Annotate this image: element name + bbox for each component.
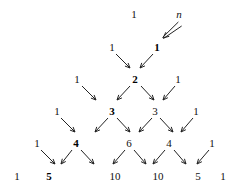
- triangle-cell-r5-c4: 5: [195, 171, 201, 182]
- pascals-triangle-figure: 11112113311464115101051 n: [0, 0, 237, 189]
- arrow-r2c1-to-r3c0: [117, 86, 130, 100]
- triangle-cell-r4-c3: 4: [166, 138, 172, 149]
- triangle-cell-r5-c3: 10: [153, 171, 164, 182]
- triangle-cell-r2-c0: 1: [74, 74, 80, 85]
- arrow-r3c1-to-r4c0: [95, 118, 108, 132]
- triangle-cell-r3-c1: 3: [109, 106, 115, 117]
- triangle-cell-r5-c0: 1: [14, 171, 20, 182]
- arrow-r4c3-to-r5c2: [153, 150, 165, 164]
- arrow-r2c1-to-r3c1: [141, 86, 154, 100]
- arrow-r2c0-to-r3c0: [82, 86, 96, 100]
- arrow-r4c3-to-r5c3: [174, 150, 186, 164]
- arrow-r4c1-to-r5c1: [81, 150, 94, 164]
- arrow-r4c4-to-r5c3: [197, 150, 209, 164]
- arrow-r1c0-to-r2c0: [116, 54, 130, 68]
- triangle-cell-r5-c2: 10: [110, 171, 121, 182]
- arrow-layer: [0, 0, 237, 189]
- arrow-r1c1-to-r2c0: [140, 54, 153, 68]
- arrow-r3c2-to-r4c1: [139, 118, 152, 132]
- arrow-r3c3-to-r4c2: [181, 118, 193, 132]
- arrow-r4c2-to-r5c1: [113, 150, 125, 164]
- triangle-cell-r5-c1: 5: [46, 171, 52, 182]
- triangle-cell-r2-c1: 2: [132, 74, 138, 85]
- triangle-cell-r3-c3: 1: [193, 106, 199, 117]
- triangle-cell-r3-c0: 1: [54, 106, 60, 117]
- triangle-cell-r1-c0: 1: [109, 42, 115, 53]
- arrow-r3c1-to-r4c1: [117, 118, 130, 132]
- triangle-cell-r3-c2: 3: [152, 106, 158, 117]
- triangle-cell-r4-c0: 1: [34, 138, 40, 149]
- arrow-r4c1-to-r5c0: [61, 150, 72, 164]
- arrow-r3c2-to-r4c2: [160, 118, 173, 132]
- variable-n-label: n: [176, 9, 182, 20]
- triangle-cell-r4-c1: 4: [73, 138, 79, 149]
- triangle-cell-r4-c4: 1: [209, 138, 215, 149]
- arrow-r2c2-to-r3c1: [163, 86, 175, 100]
- triangle-cell-r5-c5: 1: [220, 171, 226, 182]
- arrow-n-to-one: [163, 22, 182, 39]
- triangle-cell-r0-c0: 1: [131, 9, 137, 20]
- arrow-r4c2-to-r5c2: [134, 150, 146, 164]
- triangle-cell-r1-c1: 1: [154, 42, 160, 53]
- triangle-cell-r4-c2: 6: [126, 138, 132, 149]
- arrow-r3c0-to-r4c0: [61, 118, 75, 132]
- triangle-cell-r2-c2: 1: [175, 74, 181, 85]
- arrow-r4c0-to-r5c0: [41, 150, 55, 164]
